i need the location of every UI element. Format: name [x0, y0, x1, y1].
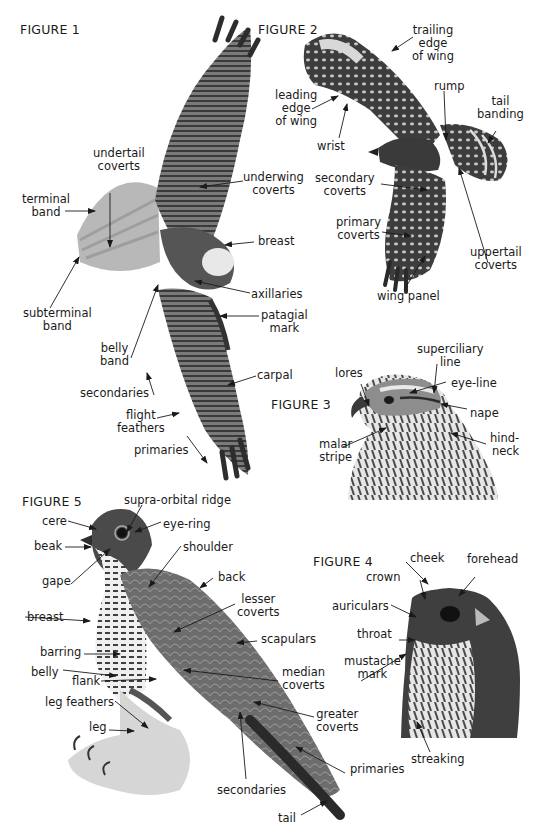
- leader-arrow: [127, 505, 142, 532]
- figure-5-label-tail: tail: [278, 812, 296, 825]
- label-line: lores: [335, 367, 363, 380]
- figure-4-label-auriculars: auriculars: [332, 600, 389, 613]
- figure-4-label-cheek: cheek: [410, 552, 444, 565]
- label-line: banding: [477, 108, 524, 121]
- figure-1-label-axillaries: axillaries: [251, 288, 302, 301]
- label-line: cere: [42, 515, 67, 528]
- leader-arrow: [392, 37, 413, 51]
- figure-2-label-secondary-coverts: secondarycoverts: [315, 172, 375, 198]
- figure-5-label-scapulars: scapulars: [261, 633, 316, 646]
- label-line: coverts: [336, 229, 381, 242]
- figure-3-label-superciliary-line: superciliaryline: [417, 343, 484, 369]
- leader-arrow: [301, 801, 327, 815]
- bird-topography-diagram: FIGURE 1undertailcovertsterminalbandunde…: [0, 0, 538, 835]
- figure-2-label-primary-coverts: primarycoverts: [336, 216, 381, 242]
- leader-arrow: [391, 605, 416, 617]
- figure-5-label-breast: breast: [27, 611, 63, 624]
- leader-arrow: [109, 730, 134, 731]
- leader-arrow: [410, 382, 446, 393]
- leader-arrow: [50, 257, 79, 308]
- figure-5-title: FIGURE 5: [22, 494, 82, 509]
- label-line: barring: [40, 646, 81, 659]
- leader-arrow: [404, 256, 425, 290]
- label-line: primaries: [134, 444, 188, 457]
- label-line: band: [23, 320, 92, 333]
- leader-arrow: [200, 578, 213, 588]
- figure-5-label-back: back: [218, 571, 245, 584]
- label-line: mark: [344, 668, 401, 681]
- leader-arrows: [0, 0, 538, 835]
- label-line: nape: [470, 407, 499, 420]
- figure-1-label-underwing-coverts: underwingcoverts: [243, 171, 304, 197]
- figure-2-label-wing-panel: wing panel: [377, 290, 440, 303]
- leader-arrow: [149, 546, 181, 587]
- figure-2-label-wrist: wrist: [317, 140, 345, 153]
- leader-arrow: [131, 285, 158, 358]
- label-line: gape: [42, 575, 71, 588]
- label-line: of wing: [275, 115, 317, 128]
- label-line: forehead: [467, 553, 518, 566]
- leader-arrow: [339, 104, 347, 138]
- leader-arrow: [361, 384, 369, 406]
- figure-3-label-eye-line: eye-line: [451, 377, 497, 390]
- figure-1-label-terminal-band: terminalband: [22, 193, 70, 219]
- label-line: belly: [31, 666, 59, 679]
- figure-3-label-nape: nape: [470, 407, 499, 420]
- leader-arrow: [184, 670, 278, 681]
- leader-arrow: [420, 580, 425, 599]
- leader-arrow: [71, 549, 110, 584]
- figure-5-label-secondaries: secondaries: [217, 784, 286, 797]
- label-line: crown: [366, 571, 401, 584]
- figure-2-label-uppertail-coverts: uppertailcoverts: [470, 246, 522, 272]
- label-line: shoulder: [183, 541, 233, 554]
- leader-arrow: [381, 184, 427, 190]
- label-line: band: [22, 206, 70, 219]
- figure-4-label-throat: throat: [357, 628, 392, 641]
- leader-arrow: [441, 404, 467, 409]
- figure-3-label-hind-neck: hind-neck: [490, 432, 519, 458]
- figure-5-label-greater-coverts: greatercoverts: [316, 708, 358, 734]
- label-line: coverts: [282, 679, 325, 692]
- leader-arrow: [200, 181, 243, 187]
- figure-1-title: FIGURE 1: [20, 22, 80, 37]
- label-line: tail: [278, 812, 296, 825]
- label-line: rump: [434, 80, 465, 93]
- label-line: line: [417, 356, 484, 369]
- figure-4-label-mustache-mark: mustachemark: [344, 655, 401, 681]
- label-line: mark: [261, 322, 308, 335]
- figure-3-label-malar-stripe: malarstripe: [319, 438, 352, 464]
- leader-arrow: [444, 91, 446, 140]
- figure-1-label-breast: breast: [258, 235, 294, 248]
- label-line: breast: [258, 235, 294, 248]
- leader-arrow: [451, 433, 486, 444]
- figure-3-label-lores: lores: [335, 367, 363, 380]
- leader-arrow: [254, 702, 314, 717]
- figure-5-label-flank: flank: [72, 675, 100, 688]
- figure-5-label-primaries: primaries: [350, 763, 404, 776]
- figure-2-label-trailing-edge-of-wing: trailingedgeof wing: [412, 24, 454, 63]
- label-line: neck: [490, 445, 519, 458]
- label-line: back: [218, 571, 245, 584]
- leader-arrow: [237, 641, 257, 643]
- label-line: secondaries: [80, 387, 149, 400]
- figure-5-label-supra-orbital-ridge: supra-orbital ridge: [124, 494, 231, 507]
- leader-arrow: [101, 679, 156, 681]
- leader-arrow: [459, 577, 475, 596]
- label-line: wing panel: [377, 290, 440, 303]
- figure-1-label-flight-feathers: flightfeathers: [117, 409, 165, 435]
- label-line: band: [100, 355, 129, 368]
- label-line: leg feathers: [45, 696, 114, 709]
- figure-5-label-median-coverts: mediancoverts: [282, 666, 325, 692]
- figure-1-label-primaries: primaries: [134, 444, 188, 457]
- leader-arrow: [488, 131, 496, 143]
- label-line: feathers: [117, 422, 165, 435]
- figure-5-label-lesser-coverts: lessercoverts: [237, 593, 279, 619]
- label-line: coverts: [243, 184, 304, 197]
- figure-1-label-secondaries: secondaries: [80, 387, 149, 400]
- label-line: wrist: [317, 140, 345, 153]
- figure-2-label-leading-edge-of-wing: leadingedgeof wing: [275, 89, 317, 128]
- label-line: auriculars: [332, 600, 389, 613]
- label-line: cheek: [410, 552, 444, 565]
- figure-4-label-crown: crown: [366, 571, 401, 584]
- leader-arrow: [225, 242, 254, 245]
